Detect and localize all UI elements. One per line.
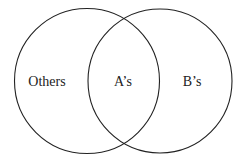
label-right-only: B’s bbox=[183, 74, 202, 90]
label-intersection: A’s bbox=[114, 74, 132, 90]
label-others: Others bbox=[28, 74, 65, 90]
venn-diagram: Others A’s B’s bbox=[0, 0, 241, 162]
